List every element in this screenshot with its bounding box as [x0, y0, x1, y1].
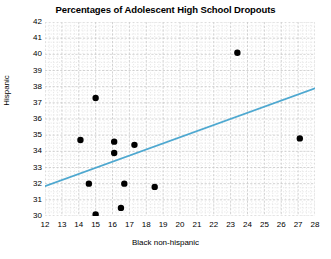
data-point	[297, 135, 303, 141]
y-tick-label: 33	[16, 164, 42, 172]
x-axis-label: Black non-hispanic	[0, 238, 331, 247]
y-tick-label: 34	[16, 147, 42, 155]
y-tick-label: 41	[16, 34, 42, 42]
y-tick-label: 40	[16, 50, 42, 58]
data-point	[118, 205, 124, 211]
chart-title: Percentages of Adolescent High School Dr…	[0, 4, 331, 15]
y-tick-label: 42	[16, 18, 42, 26]
plot-area	[45, 22, 315, 216]
scatter-chart: Percentages of Adolescent High School Dr…	[0, 0, 331, 259]
y-tick-label: 36	[16, 115, 42, 123]
y-tick-label: 31	[16, 196, 42, 204]
major-gridlines	[45, 22, 315, 216]
y-tick-label: 39	[16, 67, 42, 75]
y-tick-label: 38	[16, 83, 42, 91]
y-axis-label-text: Hispanic	[2, 61, 11, 121]
data-point	[111, 150, 117, 156]
y-tick-label: 32	[16, 180, 42, 188]
x-axis-ticks: 1213141516171819202122232425262728	[45, 221, 315, 233]
data-point	[77, 137, 83, 143]
data-point	[121, 180, 127, 186]
y-tick-label: 30	[16, 212, 42, 220]
x-tick-label: 28	[305, 221, 325, 229]
y-tick-label: 37	[16, 99, 42, 107]
y-tick-label: 35	[16, 131, 42, 139]
data-point	[86, 180, 92, 186]
plot-svg	[45, 22, 315, 216]
y-axis-ticks: 30313233343536373839404142	[12, 22, 42, 216]
data-point	[111, 138, 117, 144]
data-point	[234, 50, 240, 56]
data-point	[92, 95, 98, 101]
data-point	[131, 142, 137, 148]
data-point	[151, 184, 157, 190]
